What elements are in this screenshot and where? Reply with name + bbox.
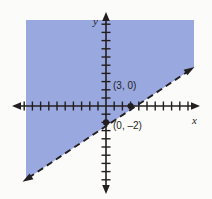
point-3-0 <box>128 103 134 109</box>
x-axis-label: x <box>191 114 197 126</box>
coordinate-plane: (3, 0) (0, –2) y x <box>0 0 212 199</box>
point-0-neg2 <box>103 119 109 125</box>
inequality-graph-figure: (3, 0) (0, –2) y x <box>0 0 212 199</box>
point-label-0-neg2: (0, –2) <box>113 120 142 131</box>
y-axis-label: y <box>92 15 98 27</box>
point-label-3-0: (3, 0) <box>113 80 136 91</box>
